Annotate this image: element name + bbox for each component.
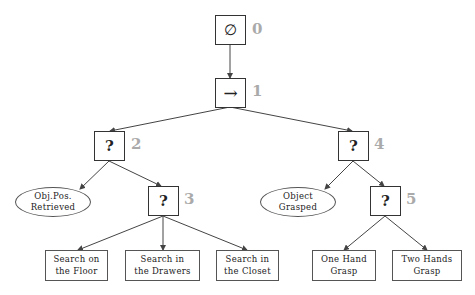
edge-4-cond bbox=[325, 161, 353, 189]
edge-3-floor bbox=[78, 216, 163, 250]
node-index-2: 2 bbox=[131, 135, 141, 153]
action-label-line1: One Hand bbox=[321, 254, 367, 264]
arrow-right-icon: → bbox=[223, 83, 237, 103]
edge-1-4 bbox=[230, 107, 352, 131]
condition-label-line1: Obj.Pos. bbox=[34, 191, 72, 201]
action-label-line2: Grasp bbox=[413, 266, 440, 276]
action-two-hands-grasp: Two HandsGrasp bbox=[392, 250, 462, 281]
question-icon: ? bbox=[105, 137, 114, 155]
action-label-line2: the Closet bbox=[224, 266, 271, 276]
action-search-drawers: Search inthe Drawers bbox=[125, 250, 200, 281]
condition-label-line2: Retrieved bbox=[31, 202, 76, 212]
node-index-4: 4 bbox=[374, 135, 384, 153]
fallback-node-2: ? bbox=[94, 131, 125, 161]
action-label-line2: Grasp bbox=[330, 266, 357, 276]
node-index-0: 0 bbox=[252, 20, 262, 38]
action-label-line2: the Drawers bbox=[134, 266, 191, 276]
node-index-5: 5 bbox=[406, 190, 416, 208]
action-one-hand-grasp: One HandGrasp bbox=[312, 250, 376, 281]
action-label-line2: the Floor bbox=[55, 266, 97, 276]
action-label-line1: Two Hands bbox=[402, 254, 453, 264]
edge-3-closet bbox=[163, 216, 247, 250]
edge-2-3 bbox=[109, 161, 161, 186]
edge-5-two bbox=[385, 216, 427, 250]
question-icon: ? bbox=[159, 192, 168, 210]
edge-4-5 bbox=[353, 161, 384, 186]
fallback-node-3: ? bbox=[148, 186, 179, 216]
condition-label-line2: Grasped bbox=[279, 202, 317, 212]
empty-set-icon: ∅ bbox=[224, 21, 237, 39]
root-node: ∅ bbox=[215, 15, 246, 45]
action-search-floor: Search onthe Floor bbox=[45, 250, 108, 281]
sequence-node: → bbox=[215, 78, 246, 108]
action-label-line1: Search on bbox=[53, 254, 99, 264]
edge-1-2 bbox=[110, 107, 230, 131]
action-label-line1: Search in bbox=[226, 254, 270, 264]
edge-5-one bbox=[344, 216, 385, 250]
condition-object-grasped: ObjectGrasped bbox=[260, 187, 336, 217]
question-icon: ? bbox=[381, 192, 390, 210]
action-search-closet: Search inthe Closet bbox=[216, 250, 279, 281]
fallback-node-5: ? bbox=[370, 186, 401, 216]
condition-label-line1: Object bbox=[283, 191, 313, 201]
edge-2-cond bbox=[80, 161, 109, 189]
question-icon: ? bbox=[349, 137, 358, 155]
node-index-1: 1 bbox=[252, 82, 262, 100]
fallback-node-4: ? bbox=[338, 131, 369, 161]
node-index-3: 3 bbox=[184, 190, 194, 208]
action-label-line1: Search in bbox=[141, 254, 185, 264]
condition-obj-pos-retrieved: Obj.Pos.Retrieved bbox=[15, 187, 91, 217]
